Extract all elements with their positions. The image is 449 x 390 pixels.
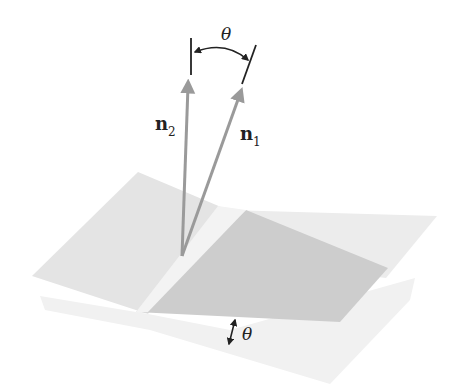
normal-2-subscript: 2 bbox=[168, 125, 176, 139]
plane-angle-label: θ bbox=[242, 324, 252, 344]
planes-normals-diagram: θ n 2 n 1 θ bbox=[0, 0, 449, 390]
top-angle-arc-icon bbox=[195, 48, 248, 61]
normal-1-subscript: 1 bbox=[253, 135, 261, 149]
normal-2-label: n bbox=[155, 113, 168, 134]
top-angle-label: θ bbox=[221, 24, 231, 44]
normal-1-label: n bbox=[240, 123, 253, 144]
normal-extension-n1 bbox=[242, 45, 256, 84]
